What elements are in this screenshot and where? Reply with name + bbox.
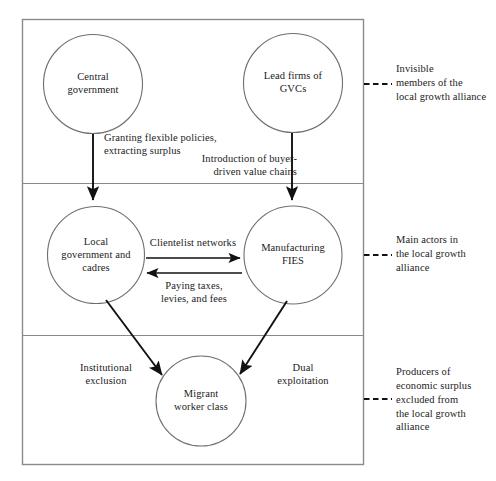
node-circle-local-government-cadres[interactable] [48,207,145,304]
node-circle-lead-firms-gvcs[interactable] [244,34,343,133]
diagram-canvas: Central government Lead firms of GVCs Lo… [0,0,496,481]
side-note-connectors-group [364,84,392,399]
node-circle-manufacturing-fies[interactable] [244,206,342,304]
node-circle-central-government[interactable] [44,35,143,134]
node-circle-migrant-worker-class[interactable] [156,356,246,446]
diagram-vector-layer [0,0,496,481]
